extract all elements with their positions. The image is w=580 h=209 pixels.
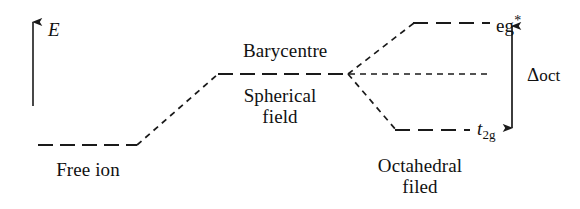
t2g-label-subscript: 2g (482, 127, 495, 142)
octahedral-field-line-1: Octahedral (378, 155, 462, 176)
delta-symbol: Δ (527, 64, 539, 85)
barycentre-label: Barycentre (243, 41, 327, 62)
free-ion-to-barycentre-connector (137, 74, 218, 145)
spherical-field-label: Spherical field (231, 86, 329, 127)
energy-axis-label: E (48, 20, 60, 41)
delta-oct-label: Δoct (527, 65, 560, 86)
octahedral-field-label: Octahedral filed (363, 156, 477, 197)
crystal-field-splitting-diagram: E Barycentre Spherical field Free ion Oc… (0, 0, 580, 209)
delta-oct-subscript: oct (539, 66, 560, 85)
t2g-level-label: t2g (477, 119, 496, 142)
octahedral-field-line-2: filed (402, 176, 437, 197)
eg-level-label: eg* (496, 13, 521, 37)
spherical-field-line-2: field (262, 106, 297, 127)
free-ion-label: Free ion (38, 160, 138, 181)
barycentre-to-t2g-connector (348, 74, 396, 130)
barycentre-to-eg-connector (348, 23, 414, 74)
eg-star-superscript: * (514, 13, 521, 28)
eg-label-text: eg (496, 15, 514, 36)
spherical-field-line-1: Spherical (244, 85, 317, 106)
